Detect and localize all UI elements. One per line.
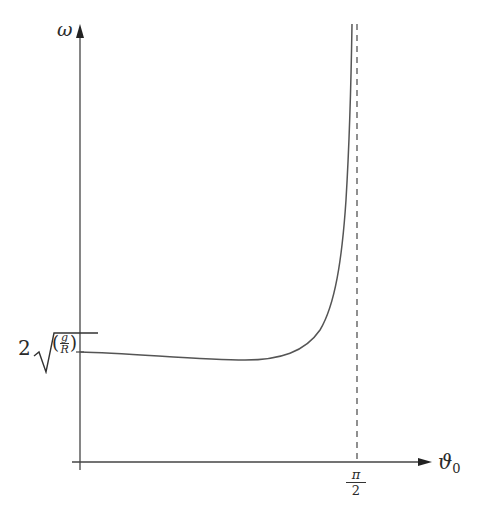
x-axis-label-sub: 0 <box>452 461 460 476</box>
fraction-denominator: R <box>60 344 69 355</box>
y-intercept-coefficient: 2 <box>18 338 31 358</box>
asymptote-label-denominator: 2 <box>346 483 366 497</box>
y-axis-label: ω <box>57 20 73 39</box>
close-paren: ) <box>70 332 77 353</box>
diagram-canvas <box>0 0 485 511</box>
x-axis-label-main: ϑ <box>438 450 452 474</box>
x-axis-label: ϑ0 <box>438 452 461 475</box>
x-axis-arrow-icon <box>418 458 432 466</box>
asymptote-label: π 2 <box>346 468 366 497</box>
y-axis-label-text: ω <box>57 18 73 40</box>
open-paren: ( <box>52 332 59 353</box>
asymptote-label-numerator: π <box>346 468 366 483</box>
y-axis-arrow-icon <box>76 24 84 38</box>
radicand: (gR) <box>52 332 77 355</box>
omega-curve <box>80 24 352 360</box>
g-over-r-fraction: gR <box>60 332 69 355</box>
